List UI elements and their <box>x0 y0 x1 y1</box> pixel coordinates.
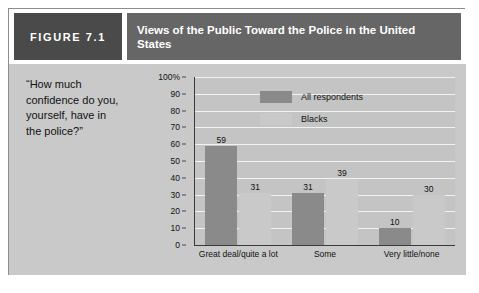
y-axis-tick-mark <box>182 194 186 195</box>
x-axis-line <box>194 245 455 246</box>
x-axis-category-label: Some <box>314 249 336 259</box>
y-axis-tick-mark <box>182 245 186 246</box>
y-axis-tick-mark <box>182 177 186 178</box>
figure-frame: FIGURE 7.1 Views of the Public Toward th… <box>8 8 465 275</box>
bar-value-label: 31 <box>239 182 271 192</box>
figure-title-box: Views of the Public Toward the Police in… <box>127 13 461 60</box>
y-axis-tick-label: 60 <box>171 139 180 149</box>
bar-value-label: 10 <box>379 217 411 227</box>
y-axis-tick-label: 90 <box>171 89 180 99</box>
bar <box>379 228 411 245</box>
y-axis-tick-mark <box>182 77 186 78</box>
y-axis-tick-label: 30 <box>171 190 180 200</box>
bar <box>413 195 445 245</box>
y-axis: 0102030405060708090100% <box>140 77 188 247</box>
y-axis-tick-label: 100% <box>158 72 180 82</box>
chart-legend: All respondentsBlacks <box>260 89 410 133</box>
y-axis-tick-label: 10 <box>171 223 180 233</box>
y-axis-tick-mark <box>182 127 186 128</box>
legend-label: Blacks <box>301 114 328 124</box>
bar-value-label: 31 <box>292 182 324 192</box>
bar <box>292 193 324 245</box>
y-axis-tick-label: 0 <box>175 240 180 250</box>
legend-item: Blacks <box>260 111 410 126</box>
legend-item: All respondents <box>260 89 410 104</box>
y-axis-tick-mark <box>182 228 186 229</box>
legend-swatch <box>260 113 292 125</box>
legend-swatch <box>260 91 292 103</box>
question-quote: “How much confidence do you, yourself, h… <box>26 77 122 139</box>
bar-chart: 0102030405060708090100% 593131391030 All… <box>140 77 455 267</box>
bar <box>326 179 358 245</box>
figure-header: FIGURE 7.1 Views of the Public Toward th… <box>9 9 466 64</box>
y-axis-tick-mark <box>182 93 186 94</box>
y-axis-tick-label: 40 <box>171 173 180 183</box>
bar-value-label: 59 <box>205 135 237 145</box>
y-axis-tick-mark <box>182 161 186 162</box>
x-axis-category-label: Great deal/quite a lot <box>199 249 278 259</box>
y-axis-tick-mark <box>182 211 186 212</box>
legend-label: All respondents <box>301 92 363 102</box>
bar <box>205 146 237 245</box>
y-axis-tick-label: 70 <box>171 122 180 132</box>
y-axis-tick-label: 20 <box>171 206 180 216</box>
gridline <box>195 77 455 78</box>
figure-number-box: FIGURE 7.1 <box>14 13 122 60</box>
bar-value-label: 30 <box>413 184 445 194</box>
y-axis-tick-label: 80 <box>171 106 180 116</box>
figure-number-label: FIGURE 7.1 <box>30 31 106 43</box>
y-axis-tick-mark <box>182 110 186 111</box>
x-axis-labels: Great deal/quite a lotSomeVery little/no… <box>195 249 455 265</box>
x-axis-category-label: Very little/none <box>384 249 440 259</box>
figure-title: Views of the Public Toward the Police in… <box>127 23 461 51</box>
bar <box>239 193 271 245</box>
y-axis-tick-mark <box>182 144 186 145</box>
y-axis-tick-label: 50 <box>171 156 180 166</box>
bar-value-label: 39 <box>326 168 358 178</box>
figure-body: “How much confidence do you, yourself, h… <box>9 64 466 275</box>
